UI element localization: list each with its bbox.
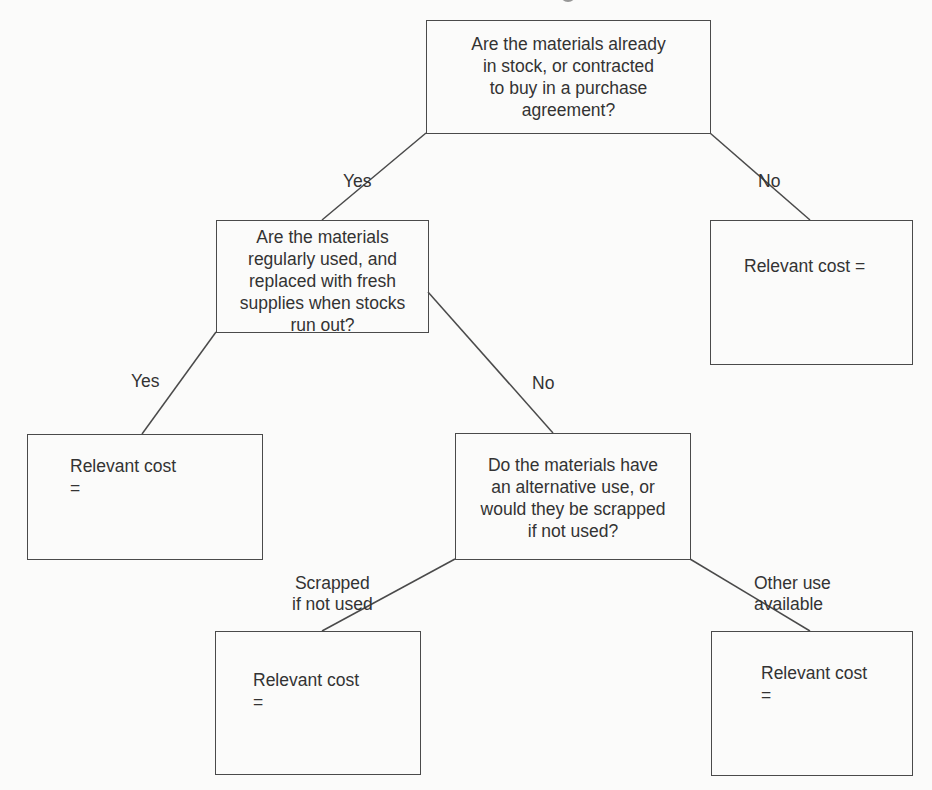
result-box-regularly-used: Relevant cost = — [27, 434, 263, 560]
result-box-scrapped: Relevant cost = — [215, 631, 421, 775]
edge-label-scrapped: Scrapped if not used — [292, 573, 373, 615]
result-text-regularly-used: Relevant cost = — [70, 455, 176, 499]
edge-label-q2-yes: Yes — [131, 371, 160, 392]
edge-label-other-use: Other use available — [754, 573, 831, 615]
edge-label-q2-no: No — [532, 373, 554, 394]
result-box-not-in-stock: Relevant cost = — [710, 220, 913, 365]
edge-q2-no — [428, 292, 553, 433]
decision-box-alternative-use: Do the materials have an alternative use… — [455, 433, 691, 560]
result-text-other-use: Relevant cost = — [761, 662, 867, 706]
edge-label-q1-yes: Yes — [343, 171, 372, 192]
result-text-scrapped: Relevant cost = — [253, 669, 359, 713]
decision-box-regularly-used: Are the materials regularly used, and re… — [216, 220, 429, 333]
result-text-not-in-stock: Relevant cost = — [744, 255, 865, 277]
result-box-other-use: Relevant cost = — [711, 631, 913, 776]
edge-q1-yes — [322, 133, 426, 220]
decision-box-in-stock: Are the materials already in stock, or c… — [426, 20, 711, 134]
decision-text-regularly-used: Are the materials regularly used, and re… — [217, 226, 428, 336]
edge-label-q1-no: No — [758, 171, 780, 192]
decision-text-alternative-use: Do the materials have an alternative use… — [456, 454, 690, 542]
decision-text-in-stock: Are the materials already in stock, or c… — [427, 33, 710, 121]
